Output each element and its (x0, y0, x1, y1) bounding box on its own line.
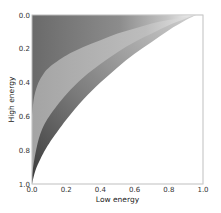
x-axis: 0.00.20.40.60.81.0 (26, 186, 208, 194)
x-tick-label: 0.4 (95, 186, 107, 194)
y-tick-label: 0.6 (19, 113, 31, 121)
y-tick-label: 0.4 (19, 79, 31, 87)
plot-area (32, 15, 203, 184)
y-tick-label: 0.8 (19, 147, 30, 155)
chart: 0.00.20.40.60.81.0 0.00.20.40.60.81.0 Lo… (0, 0, 221, 213)
y-tick-label: 0.2 (19, 45, 30, 53)
x-tick-label: 0.8 (163, 186, 174, 194)
y-axis: 0.00.20.40.60.81.0 (19, 12, 31, 189)
x-axis-label: Low energy (96, 195, 140, 204)
x-tick-label: 0.2 (61, 186, 72, 194)
y-tick-label: 0.0 (19, 12, 30, 20)
x-tick-label: 0.6 (129, 186, 141, 194)
x-tick-label: 1.0 (197, 186, 208, 194)
y-axis-label: High energy (7, 76, 16, 122)
y-tick-label: 1.0 (19, 181, 30, 189)
